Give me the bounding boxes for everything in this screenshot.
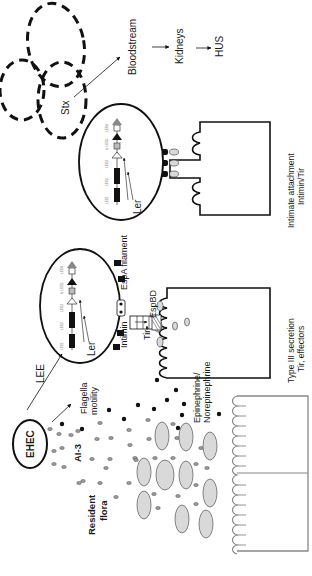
flagella-label: Flagella — [79, 382, 89, 414]
svg-text:LEE3: LEE3 — [105, 160, 109, 168]
intimin-label: Intimin — [119, 321, 129, 348]
ai3-label: AI-3 — [72, 444, 83, 462]
lee-label: LEE — [35, 364, 46, 383]
intimin-tir-label: Intimin/Tir — [296, 168, 306, 205]
svg-text:LEE2: LEE2 — [60, 322, 64, 330]
svg-text:LEE1: LEE1 — [60, 342, 64, 350]
svg-text:LEE2: LEE2 — [105, 178, 109, 186]
ehec-bacterium-attached: LEE1 LEE2 LEE3 tir LEE5 LEE4 — [79, 104, 163, 220]
ehec-label: EHEC — [25, 430, 36, 458]
lysed-bacteria-cluster — [0, 0, 91, 138]
epithelial-cell-type3 — [154, 288, 270, 378]
bloodstream-label: Bloodstream — [127, 19, 138, 75]
svg-text:tir LEE5: tir LEE5 — [60, 282, 64, 294]
intestinal-epithelium — [233, 396, 309, 554]
svg-text:tir LEE5: tir LEE5 — [105, 138, 109, 150]
tir-label: Tir — [142, 330, 152, 340]
espbd-label: EspBD — [148, 289, 158, 318]
intimate-attachment-label: Intimate attachment — [286, 153, 296, 228]
resident-label: Resident — [86, 494, 97, 535]
flagella-arrow — [52, 404, 71, 422]
ehec-bacterium-secreting: LEE1 LEE2 LEE3 tir LEE5 LEE4 — [40, 249, 125, 363]
hus-label: HUS — [214, 36, 225, 57]
ler-label-2: Ler — [132, 199, 143, 214]
tir-effectors-label: Tir, effectors — [296, 326, 306, 372]
ehec-pathogenesis-diagram: Stx Bloodstream Kidneys HUS Intimate att… — [0, 0, 312, 576]
motility-label: motility — [89, 386, 99, 415]
epithelial-cell-intimate — [161, 122, 270, 215]
flora-label: flora — [98, 500, 109, 521]
ler-label-1: Ler — [86, 341, 97, 356]
svg-text:LEE4: LEE4 — [105, 124, 109, 132]
svg-text:LEE1: LEE1 — [105, 196, 109, 204]
kidneys-label: Kidneys — [174, 28, 185, 64]
svg-text:LEE4: LEE4 — [60, 266, 64, 274]
type3-secretion-label: Type III secretion — [286, 318, 296, 383]
stx-label: Stx — [60, 101, 71, 115]
epinephrine-label: Epinephrine/ — [192, 372, 202, 423]
svg-text:LEE3: LEE3 — [60, 304, 64, 312]
norepinephrine-label: Norepinephrine — [202, 361, 212, 423]
